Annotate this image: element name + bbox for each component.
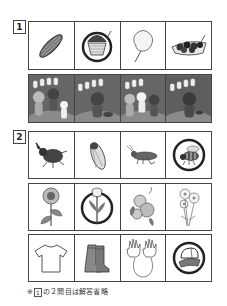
answer-cell-hat-circled[interactable] — [166, 235, 211, 281]
answer-cell-gloves[interactable] — [121, 235, 167, 281]
grasshopper-icon — [125, 143, 161, 167]
festival-scene-icon — [29, 75, 74, 122]
tulip-icon — [79, 186, 115, 228]
answer-cell-cicada[interactable] — [75, 132, 121, 178]
footnote-boxed-number: 1 — [34, 288, 42, 297]
gloves-icon — [125, 237, 161, 279]
section1-scene-row — [28, 74, 212, 123]
answer-cell-grilled-corn[interactable] — [29, 22, 75, 69]
rain-boots-icon — [80, 241, 114, 275]
answer-cell-scene-4[interactable] — [166, 75, 211, 122]
section1-food-row — [28, 21, 212, 70]
t-shirt-icon — [33, 242, 69, 274]
question-number-1: 1 — [13, 20, 26, 34]
grilled-corn-icon — [34, 29, 68, 63]
section2-flower-row — [28, 183, 212, 231]
answer-cell-rhinoceros-beetle[interactable] — [29, 132, 75, 178]
sunflower-icon — [36, 186, 66, 228]
answer-cell-grasshopper[interactable] — [121, 132, 167, 178]
answer-cell-scene-2[interactable] — [75, 75, 121, 122]
answer-cell-sunflower[interactable] — [29, 184, 75, 230]
answer-cell-cosmos[interactable] — [166, 184, 211, 230]
answer-cell-bee-circled[interactable] — [166, 132, 211, 178]
answer-cell-tulip-circled[interactable] — [75, 184, 121, 230]
rhinoceros-beetle-icon — [33, 140, 69, 170]
section2-clothing-row — [28, 234, 212, 282]
raccoon-scene-icon — [75, 75, 120, 122]
answer-cell-shaved-ice[interactable] — [75, 22, 121, 69]
cicada-icon — [82, 136, 112, 174]
footnote-text: の２問目は解答省略 — [43, 288, 108, 296]
shaved-ice-icon — [80, 26, 114, 66]
raccoon-alone-scene-icon — [166, 75, 211, 122]
answer-cell-scene-3[interactable] — [121, 75, 167, 122]
answer-cell-cotton-candy[interactable] — [121, 22, 167, 69]
answer-cell-takoyaki[interactable] — [166, 22, 211, 69]
bee-icon — [171, 137, 207, 173]
answer-cell-t-shirt[interactable] — [29, 235, 75, 281]
cotton-candy-icon — [126, 26, 160, 66]
takoyaki-icon — [169, 29, 209, 63]
footnote: ※1の２問目は解答省略 — [27, 286, 108, 297]
hat-icon — [171, 240, 207, 276]
group-scene-icon — [121, 75, 166, 122]
answer-cell-morning-glory[interactable] — [121, 184, 167, 230]
section2-insect-row — [28, 131, 212, 179]
cosmos-icon — [173, 186, 205, 228]
question-number-2: 2 — [13, 130, 26, 144]
footnote-prefix: ※ — [27, 288, 33, 296]
answer-cell-scene-1[interactable] — [29, 75, 75, 122]
morning-glory-icon — [125, 186, 161, 228]
answer-cell-rain-boots[interactable] — [75, 235, 121, 281]
